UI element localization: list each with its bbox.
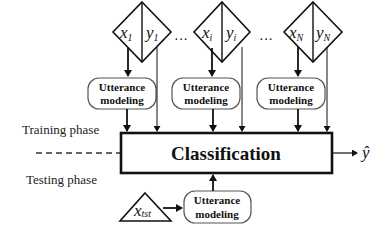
utterance-modeling-box-1: Utterance modeling	[88, 78, 156, 109]
training-input-1: x1 y1	[113, 2, 171, 62]
test-input: xtst	[120, 193, 171, 221]
classification-pipeline-diagram: x1 y1 xi yi xN yN ··· ··· Utterance mode…	[0, 0, 390, 238]
svg-text:Classification: Classification	[171, 143, 281, 164]
testing-phase-label: Testing phase	[26, 172, 97, 187]
svg-text:Utterance: Utterance	[183, 81, 230, 93]
svg-text:modeling: modeling	[184, 94, 228, 106]
svg-text:Utterance: Utterance	[268, 81, 315, 93]
svg-text:modeling: modeling	[269, 94, 313, 106]
test-utterance-modeling-box: Utterance modeling	[184, 191, 251, 223]
utterance-modeling-box-2: Utterance modeling	[172, 78, 240, 109]
svg-text:Utterance: Utterance	[99, 81, 146, 93]
training-input-n: xN yN	[284, 2, 342, 62]
output-label: ŷ	[360, 143, 370, 162]
svg-text:modeling: modeling	[195, 208, 239, 220]
svg-text:Utterance: Utterance	[194, 194, 241, 206]
training-phase-label: Training phase	[22, 122, 99, 137]
svg-text:modeling: modeling	[100, 94, 144, 106]
ellipsis: ···	[174, 32, 188, 47]
classification-box: Classification	[121, 133, 332, 173]
utterance-modeling-box-3: Utterance modeling	[257, 78, 325, 109]
ellipsis: ···	[259, 32, 273, 47]
